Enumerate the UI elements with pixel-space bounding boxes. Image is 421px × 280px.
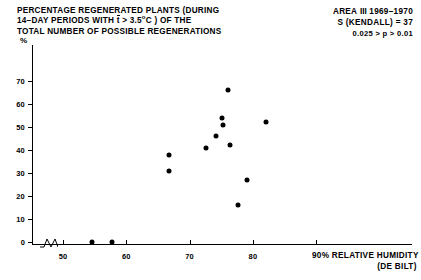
- kendall-statistic: S (KENDALL) = 37: [333, 17, 413, 28]
- y-tick-label-50: 50: [0, 123, 25, 132]
- x-tick-label-50: 50: [59, 252, 68, 261]
- area-roman-numeral: III: [360, 7, 367, 16]
- x-tick-90: [316, 240, 317, 245]
- x-axis-line: [32, 244, 412, 245]
- data-point: [235, 203, 240, 208]
- data-point: [263, 120, 268, 125]
- y-tick-70: [28, 81, 33, 82]
- y-tick-10: [28, 219, 33, 220]
- data-point: [204, 145, 209, 150]
- y-tick-60: [28, 104, 33, 105]
- chart-title-line-2: 14–DAY PERIODS WITH t > 3.5oC ) OF THE: [17, 16, 247, 26]
- x-tick-label-70: 70: [185, 252, 194, 261]
- data-point: [90, 240, 95, 245]
- chart-title: PERCENTAGE REGENERATED PLANTS (DURING 14…: [17, 6, 247, 37]
- data-point: [220, 122, 225, 127]
- chart-title-line-3: TOTAL NUMBER OF POSSIBLE REGENERATIONS: [17, 27, 247, 37]
- chart-metadata: AREA III 1969–1970 S (KENDALL) = 37 0.02…: [333, 6, 413, 39]
- y-axis-unit-label: %: [20, 36, 27, 45]
- x-axis-title: 90% RELATIVE HUMIDITY (DE BILT): [312, 251, 419, 272]
- x-tick-label-80: 80: [249, 252, 258, 261]
- chart-title-line-2-mid: > 3.5: [120, 16, 142, 25]
- y-tick-20: [28, 196, 33, 197]
- y-tick-30: [28, 173, 33, 174]
- chart-title-line-2-suffix: C ) OF THE: [146, 16, 192, 25]
- data-point: [225, 88, 230, 93]
- area-label: AREA: [333, 7, 357, 16]
- y-axis-line: [32, 45, 33, 244]
- y-tick-label-20: 20: [0, 192, 25, 201]
- x-tick-50: [63, 240, 64, 245]
- x-tick-80: [253, 240, 254, 245]
- y-tick-0: [28, 242, 33, 243]
- data-point: [219, 115, 224, 120]
- x-axis-title-line-1: 90% RELATIVE HUMIDITY: [312, 251, 419, 260]
- data-point: [166, 152, 171, 157]
- y-tick-label-30: 30: [0, 169, 25, 178]
- data-point: [110, 240, 115, 245]
- y-tick-label-60: 60: [0, 100, 25, 109]
- data-point: [244, 177, 249, 182]
- y-tick-50: [28, 127, 33, 128]
- data-point: [228, 143, 233, 148]
- chart-title-line-1: PERCENTAGE REGENERATED PLANTS (DURING: [17, 6, 247, 16]
- y-tick-40: [28, 150, 33, 151]
- x-tick-label-60: 60: [122, 252, 131, 261]
- data-point: [166, 168, 171, 173]
- year-range: 1969–1970: [369, 7, 413, 16]
- x-tick-60: [126, 240, 127, 245]
- chart-title-line-2-prefix: 14–DAY PERIODS WITH: [17, 16, 117, 25]
- x-tick-70: [190, 240, 191, 245]
- p-value-range: 0.025 > p > 0.01: [333, 28, 413, 39]
- y-tick-label-40: 40: [0, 146, 25, 155]
- x-axis-title-line-2: (DE BILT): [312, 262, 419, 273]
- y-tick-label-10: 10: [0, 215, 25, 224]
- y-tick-label-70: 70: [0, 77, 25, 86]
- scatter-chart-figure: PERCENTAGE REGENERATED PLANTS (DURING 14…: [0, 0, 421, 280]
- data-point: [213, 134, 218, 139]
- t-bar-symbol: t: [117, 16, 120, 26]
- axis-break-icon: [40, 236, 58, 248]
- y-tick-label-0: 0: [0, 238, 25, 247]
- area-year-label: AREA III 1969–1970: [333, 6, 413, 17]
